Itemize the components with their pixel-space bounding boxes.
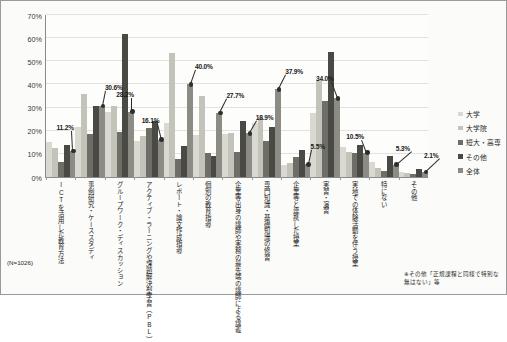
legend-item[interactable]: 短大・高専 (458, 137, 501, 147)
category-tick (75, 177, 76, 180)
y-axis-tick-label: 40% (28, 80, 42, 89)
data-label: 5.5% (311, 143, 325, 150)
x-axis-label: 個別の教育指導 (203, 181, 211, 227)
category-tick (281, 177, 282, 180)
data-label: 2.1% (424, 152, 438, 159)
legend-swatch (458, 112, 463, 117)
category-tick (222, 177, 223, 180)
chart-legend: 大学大学院短大・高専その他全体 (458, 109, 501, 176)
bar-group (75, 15, 104, 177)
y-axis-tick-label: 60% (28, 34, 42, 43)
legend-item[interactable]: 全体 (458, 166, 501, 176)
data-label: 27.7% (226, 92, 244, 99)
x-axis-label: 事例研究・ケーススタディ (86, 181, 94, 260)
category-tick (193, 177, 194, 180)
category-tick (340, 177, 341, 180)
y-axis-tick-label: 10% (28, 150, 42, 159)
legend-label: 大学 (466, 109, 480, 119)
bar-group (281, 15, 310, 177)
y-axis-tick-label: 50% (28, 57, 42, 66)
x-axis-labels: ICTを活用した教育方法事例研究・ケーススタディグループワーク・ディスカッション… (45, 181, 427, 283)
bar-group (193, 15, 222, 177)
data-label: 28.2% (116, 91, 134, 98)
y-axis-tick-label: 70% (28, 11, 42, 20)
data-label: 16.1% (142, 117, 160, 124)
category-tick (46, 177, 47, 180)
data-label: 40.0% (195, 63, 213, 70)
bar-group (369, 15, 398, 177)
legend-label: 大学院 (466, 123, 487, 133)
x-axis-label: ICTを活用した教育方法 (56, 181, 64, 263)
category-tick (134, 177, 135, 180)
y-axis-tick-label: 30% (28, 104, 42, 113)
data-label: 10.5% (346, 133, 364, 140)
bar-group (134, 15, 163, 177)
legend-swatch (458, 168, 463, 173)
x-axis-label: 企業等と連携した授業 (291, 181, 299, 247)
legend-item[interactable]: 大学 (458, 109, 501, 119)
x-axis-label: グループワーク・ディスカッション (115, 181, 123, 287)
category-tick (369, 177, 370, 180)
footnote-text: ※その他「正規課程と同様で特別な無はない」等 (404, 271, 500, 286)
legend-swatch (458, 154, 463, 159)
y-axis-tick-label: 0% (32, 173, 42, 182)
x-axis-label: その他 (409, 181, 417, 201)
x-axis-label: 専門知識・基礎知識の修習 (262, 181, 270, 260)
bar-group (164, 15, 193, 177)
legend-label: 全体 (466, 166, 480, 176)
legend-item[interactable]: 大学院 (458, 123, 501, 133)
x-axis-label: 企業等出身の講師や実務の最先端の講師による講義 (233, 181, 241, 333)
legend-swatch (458, 126, 463, 131)
bar-group (252, 15, 281, 177)
category-tick (310, 177, 311, 180)
x-axis-label: 実地での体験活動を伴う授業 (350, 181, 358, 267)
y-axis-tick-label: 20% (28, 127, 42, 136)
category-tick (164, 177, 165, 180)
legend-label: その他 (466, 152, 487, 162)
category-tick (399, 177, 400, 180)
x-axis-label: 実習・演習 (321, 181, 329, 214)
category-tick (105, 177, 106, 180)
data-label: 18.9% (256, 114, 274, 121)
category-tick (252, 177, 253, 180)
legend-swatch (458, 140, 463, 145)
x-axis-label: アクティブ・ラーニングや課題解決型学習（PBL） (144, 181, 152, 342)
legend-label: 短大・高専 (466, 137, 501, 147)
x-axis-label: レポート・論文作成指導 (174, 181, 182, 254)
data-label: 5.3% (396, 145, 410, 152)
plot-area: 0%10%20%30%40%50%60%70%11.2%30.6%28.2%16… (45, 15, 428, 178)
x-axis-label: 特にない (380, 181, 388, 207)
data-label: 37.9% (285, 68, 303, 75)
legend-item[interactable]: その他 (458, 152, 501, 162)
sample-size-note: (N=1026) (7, 259, 33, 266)
